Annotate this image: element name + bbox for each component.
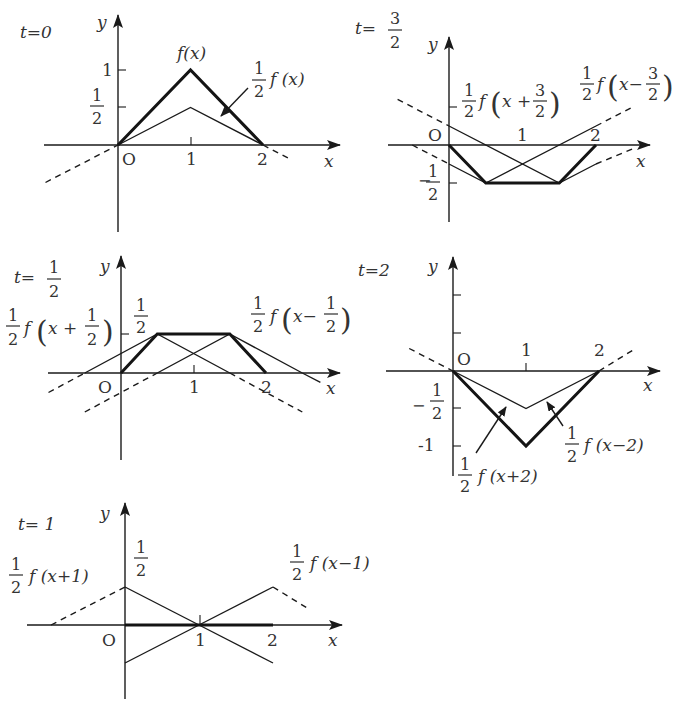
svg-text:f: f [268, 306, 279, 326]
time-label: t= 1 2 [14, 258, 61, 301]
svg-text:f (x+1): f (x+1) [27, 566, 89, 586]
svg-text:3: 3 [535, 81, 545, 100]
svg-text:2: 2 [535, 102, 545, 121]
time-label: t= 1 [18, 514, 55, 534]
svg-text:2: 2 [460, 477, 470, 496]
svg-text:1: 1 [92, 86, 102, 105]
svg-text:): ) [102, 314, 114, 349]
svg-text:t=: t= [14, 267, 35, 287]
x-tick-label-2: 2 [257, 149, 268, 169]
svg-text:2: 2 [292, 565, 302, 584]
svg-text:2: 2 [567, 447, 577, 466]
svg-text:2: 2 [326, 317, 336, 336]
svg-text:x +: x + [48, 318, 77, 338]
x-tick-label-1: 1 [189, 377, 200, 397]
svg-text:1: 1 [326, 294, 336, 313]
svg-text:3: 3 [390, 9, 400, 28]
curve-label-plus: 12 f (x+1) [9, 555, 89, 597]
panel-t2: t=2 y x O 1 2 − 12 -1 12 f (x+2) 12 f (x… [358, 256, 660, 496]
svg-text:2: 2 [92, 109, 102, 128]
x-tick-label-1: 1 [186, 149, 197, 169]
y-axis-label: y [427, 34, 438, 54]
curve-label-plus: 12 f ( x + 32 ) [462, 81, 561, 121]
origin-label: O [457, 349, 471, 369]
svg-text:3: 3 [648, 64, 658, 83]
curve-label-plus: 12 f (x+2) [458, 455, 538, 496]
y-tick-label-neg-1: -1 [418, 435, 435, 455]
svg-text:f (x−1): f (x−1) [308, 553, 370, 573]
svg-text:f (x+2): f (x+2) [476, 466, 538, 486]
svg-text:1: 1 [136, 538, 146, 557]
curve-label-minus: 12 f ( x− 12 ) [251, 294, 352, 337]
svg-text:2: 2 [49, 282, 59, 301]
svg-text:1: 1 [49, 258, 59, 277]
svg-text:(: ( [36, 314, 48, 349]
dashed-extension [596, 107, 633, 126]
svg-text:f: f [477, 91, 488, 111]
svg-text:f (x): f (x) [268, 69, 305, 89]
x-tick-label-2: 2 [594, 340, 605, 360]
x-axis-label: x [328, 630, 338, 650]
curve-label-minus: 12 f (x−2) [565, 424, 644, 466]
y-tick-label-1: 1 [102, 60, 113, 80]
svg-text:1: 1 [428, 162, 438, 181]
svg-text:(: ( [281, 302, 293, 337]
origin-label: O [428, 125, 442, 145]
svg-text:t=: t= [355, 18, 376, 38]
svg-text:2: 2 [648, 85, 658, 104]
dashed-extension [49, 373, 85, 393]
panel-t1: t= 1 y x O 1 2 12 12 f (x+1) 12 f (x−1) [9, 503, 370, 699]
y-axis-label: y [99, 503, 110, 523]
panel-t3-2: t= 3 2 y x O 1 2 − 12 12 f ( x + 32 ) 12… [355, 9, 674, 222]
svg-text:2: 2 [136, 561, 146, 580]
svg-text:2: 2 [390, 33, 400, 52]
svg-text:2: 2 [428, 185, 438, 204]
y-tick-label-neg-half: − 12 [418, 162, 440, 204]
time-label: t=0 [20, 22, 52, 42]
svg-text:f: f [22, 318, 33, 338]
svg-text:): ) [549, 86, 561, 121]
svg-text:1: 1 [464, 81, 474, 100]
svg-text:2: 2 [464, 102, 474, 121]
svg-text:2: 2 [432, 404, 442, 423]
svg-text:1: 1 [87, 306, 97, 325]
svg-text:1: 1 [292, 542, 302, 561]
panel-t1-2: t= 1 2 y x O 1 2 12 12 f ( x + 12 ) 12 f… [6, 256, 352, 460]
origin-label: O [122, 149, 136, 169]
svg-text:1: 1 [11, 555, 21, 574]
svg-text:): ) [662, 69, 674, 104]
svg-text:x +: x + [502, 91, 531, 111]
svg-text:2: 2 [8, 330, 18, 349]
y-axis-label: y [99, 256, 110, 276]
time-label: t= 3 2 [355, 9, 402, 52]
svg-text:(: ( [490, 86, 502, 121]
svg-text:f: f [595, 74, 606, 94]
svg-text:2: 2 [136, 318, 146, 337]
x-axis-label: x [324, 151, 334, 171]
dashed-extension [596, 149, 633, 164]
component-wave [157, 334, 302, 373]
x-tick-label-1: 1 [195, 630, 206, 650]
x-tick-label-2: 2 [267, 630, 278, 650]
pointer-arrow [221, 88, 248, 116]
pointer-arrow [476, 407, 506, 453]
svg-text:f (x−2): f (x−2) [582, 435, 644, 455]
curve-label-minus: 12 f ( x− 32 ) [580, 64, 674, 104]
y-tick-label-neg-half: − 12 [412, 381, 444, 423]
dashed-extension [409, 349, 453, 372]
y-tick-label-half: 12 [134, 538, 148, 580]
svg-text:1: 1 [253, 294, 263, 313]
y-axis-label: y [427, 256, 438, 276]
svg-text:2: 2 [253, 317, 263, 336]
x-tick-label-1: 1 [521, 340, 532, 360]
svg-text:1: 1 [582, 64, 592, 83]
wave-superposition-figure: t=0 y x O 1 12 1 2 f(x) 12 f (x) t= 3 2 [0, 0, 690, 709]
svg-text:x−: x− [619, 74, 643, 94]
svg-text:2: 2 [87, 330, 97, 349]
curve-label-plus: 12 f ( x + 12 ) [6, 306, 114, 349]
svg-text:2: 2 [254, 82, 264, 101]
time-label: t=2 [358, 260, 390, 280]
svg-text:1: 1 [567, 424, 577, 443]
component-wave [302, 373, 320, 382]
svg-text:1: 1 [136, 296, 146, 315]
